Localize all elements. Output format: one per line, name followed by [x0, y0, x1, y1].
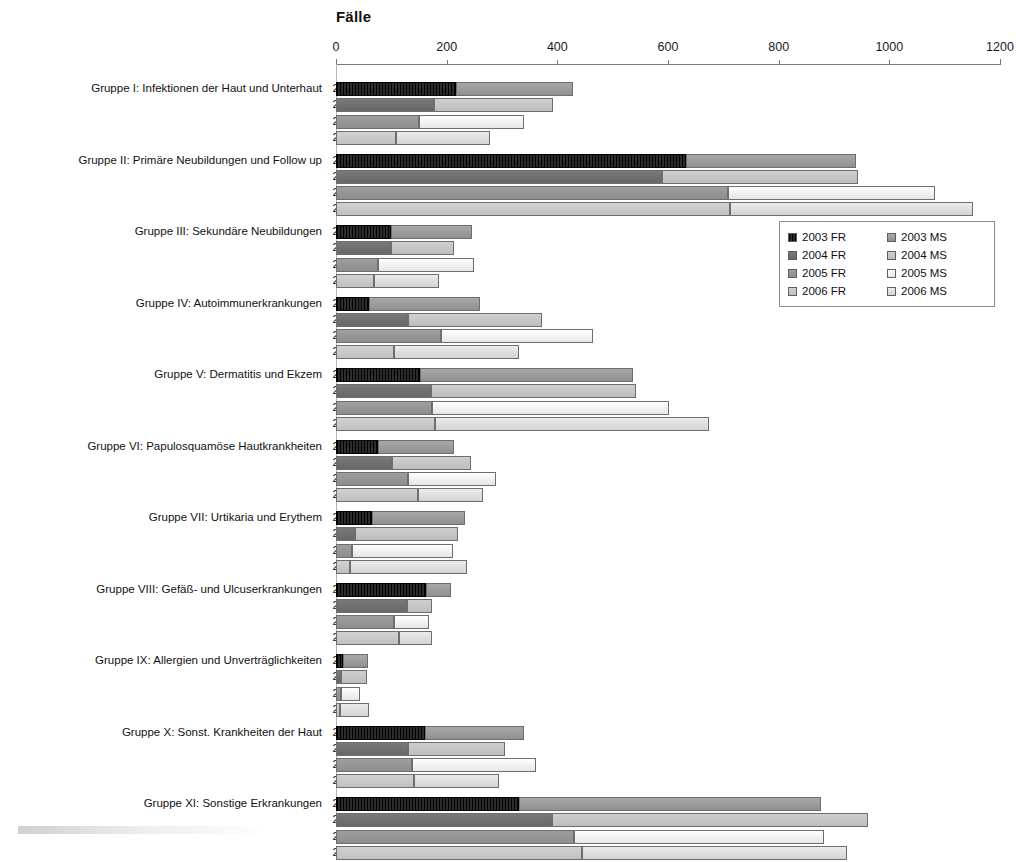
bar-segment-fr[interactable] [336, 758, 412, 772]
stacked-bar[interactable] [336, 98, 553, 112]
bar-segment-fr[interactable] [336, 774, 414, 788]
bar-segment-fr[interactable] [336, 599, 407, 613]
bar-segment-ms[interactable] [352, 544, 453, 558]
stacked-bar[interactable] [336, 774, 499, 788]
stacked-bar[interactable] [336, 758, 536, 772]
bar-segment-fr[interactable] [336, 544, 352, 558]
bar-segment-ms[interactable] [355, 527, 458, 541]
stacked-bar[interactable] [336, 241, 454, 255]
legend-item[interactable]: 2004 MS [887, 249, 986, 261]
bar-segment-ms[interactable] [519, 797, 821, 811]
bar-segment-fr[interactable] [336, 846, 582, 860]
bar-segment-fr[interactable] [336, 186, 728, 200]
bar-segment-fr[interactable] [336, 583, 426, 597]
bar-segment-ms[interactable] [420, 368, 632, 382]
stacked-bar[interactable] [336, 417, 710, 431]
bar-segment-fr[interactable] [336, 417, 435, 431]
bar-segment-ms[interactable] [441, 329, 593, 343]
legend-item[interactable]: 2004 FR [788, 249, 887, 261]
bar-segment-ms[interactable] [341, 670, 367, 684]
bar-segment-fr[interactable] [336, 472, 408, 486]
stacked-bar[interactable] [336, 345, 519, 359]
bar-segment-ms[interactable] [378, 258, 474, 272]
stacked-bar[interactable] [336, 456, 471, 470]
bar-segment-ms[interactable] [431, 384, 636, 398]
bar-segment-ms[interactable] [686, 154, 856, 168]
stacked-bar[interactable] [336, 797, 821, 811]
bar-segment-ms[interactable] [435, 417, 709, 431]
stacked-bar[interactable] [336, 583, 451, 597]
stacked-bar[interactable] [336, 544, 453, 558]
stacked-bar[interactable] [336, 329, 593, 343]
bar-segment-ms[interactable] [394, 345, 519, 359]
stacked-bar[interactable] [336, 274, 439, 288]
bar-segment-fr[interactable] [336, 401, 432, 415]
bar-segment-ms[interactable] [434, 98, 553, 112]
bar-segment-ms[interactable] [426, 583, 451, 597]
bar-segment-fr[interactable] [336, 345, 394, 359]
bar-segment-ms[interactable] [394, 615, 429, 629]
bar-segment-ms[interactable] [340, 703, 369, 717]
bar-segment-fr[interactable] [336, 797, 519, 811]
bar-segment-fr[interactable] [336, 202, 730, 216]
bar-segment-fr[interactable] [336, 488, 418, 502]
bar-segment-ms[interactable] [350, 560, 467, 574]
bar-segment-ms[interactable] [407, 599, 432, 613]
stacked-bar[interactable] [336, 654, 368, 668]
bar-segment-ms[interactable] [372, 511, 466, 525]
bar-segment-fr[interactable] [336, 115, 419, 129]
bar-segment-ms[interactable] [391, 225, 472, 239]
bar-segment-ms[interactable] [391, 241, 454, 255]
stacked-bar[interactable] [336, 225, 472, 239]
stacked-bar[interactable] [336, 472, 496, 486]
bar-segment-ms[interactable] [399, 631, 432, 645]
bar-segment-ms[interactable] [419, 115, 524, 129]
bar-segment-ms[interactable] [412, 758, 536, 772]
bar-segment-ms[interactable] [374, 274, 439, 288]
bar-segment-ms[interactable] [408, 472, 496, 486]
bar-segment-fr[interactable] [336, 154, 686, 168]
bar-segment-ms[interactable] [662, 170, 858, 184]
bar-segment-fr[interactable] [336, 830, 574, 844]
bar-segment-ms[interactable] [574, 830, 824, 844]
stacked-bar[interactable] [336, 258, 474, 272]
bar-segment-ms[interactable] [730, 202, 973, 216]
bar-segment-ms[interactable] [582, 846, 847, 860]
bar-segment-fr[interactable] [336, 631, 399, 645]
stacked-bar[interactable] [336, 527, 458, 541]
bar-segment-ms[interactable] [552, 813, 869, 827]
stacked-bar[interactable] [336, 313, 542, 327]
bar-segment-ms[interactable] [396, 131, 490, 145]
bar-segment-fr[interactable] [336, 297, 369, 311]
stacked-bar[interactable] [336, 202, 973, 216]
bar-segment-ms[interactable] [392, 456, 471, 470]
stacked-bar[interactable] [336, 703, 369, 717]
bar-segment-ms[interactable] [408, 313, 542, 327]
legend-item[interactable]: 2006 FR [788, 285, 887, 297]
bar-segment-ms[interactable] [456, 82, 573, 96]
bar-segment-fr[interactable] [336, 456, 392, 470]
stacked-bar[interactable] [336, 297, 480, 311]
bar-segment-ms[interactable] [408, 742, 505, 756]
stacked-bar[interactable] [336, 511, 465, 525]
bar-segment-ms[interactable] [728, 186, 936, 200]
stacked-bar[interactable] [336, 115, 524, 129]
stacked-bar[interactable] [336, 599, 432, 613]
stacked-bar[interactable] [336, 670, 367, 684]
bar-segment-ms[interactable] [378, 440, 455, 454]
bar-segment-fr[interactable] [336, 241, 391, 255]
stacked-bar[interactable] [336, 742, 505, 756]
stacked-bar[interactable] [336, 170, 858, 184]
bar-segment-ms[interactable] [369, 297, 480, 311]
bar-segment-fr[interactable] [336, 615, 394, 629]
legend-item[interactable]: 2005 MS [887, 267, 986, 279]
bar-segment-ms[interactable] [414, 774, 499, 788]
legend-item[interactable]: 2003 MS [887, 231, 986, 243]
stacked-bar[interactable] [336, 154, 856, 168]
bar-segment-fr[interactable] [336, 813, 552, 827]
legend-item[interactable]: 2006 MS [887, 285, 986, 297]
bar-segment-fr[interactable] [336, 527, 355, 541]
stacked-bar[interactable] [336, 830, 824, 844]
bar-segment-fr[interactable] [336, 384, 431, 398]
bar-segment-fr[interactable] [336, 258, 378, 272]
